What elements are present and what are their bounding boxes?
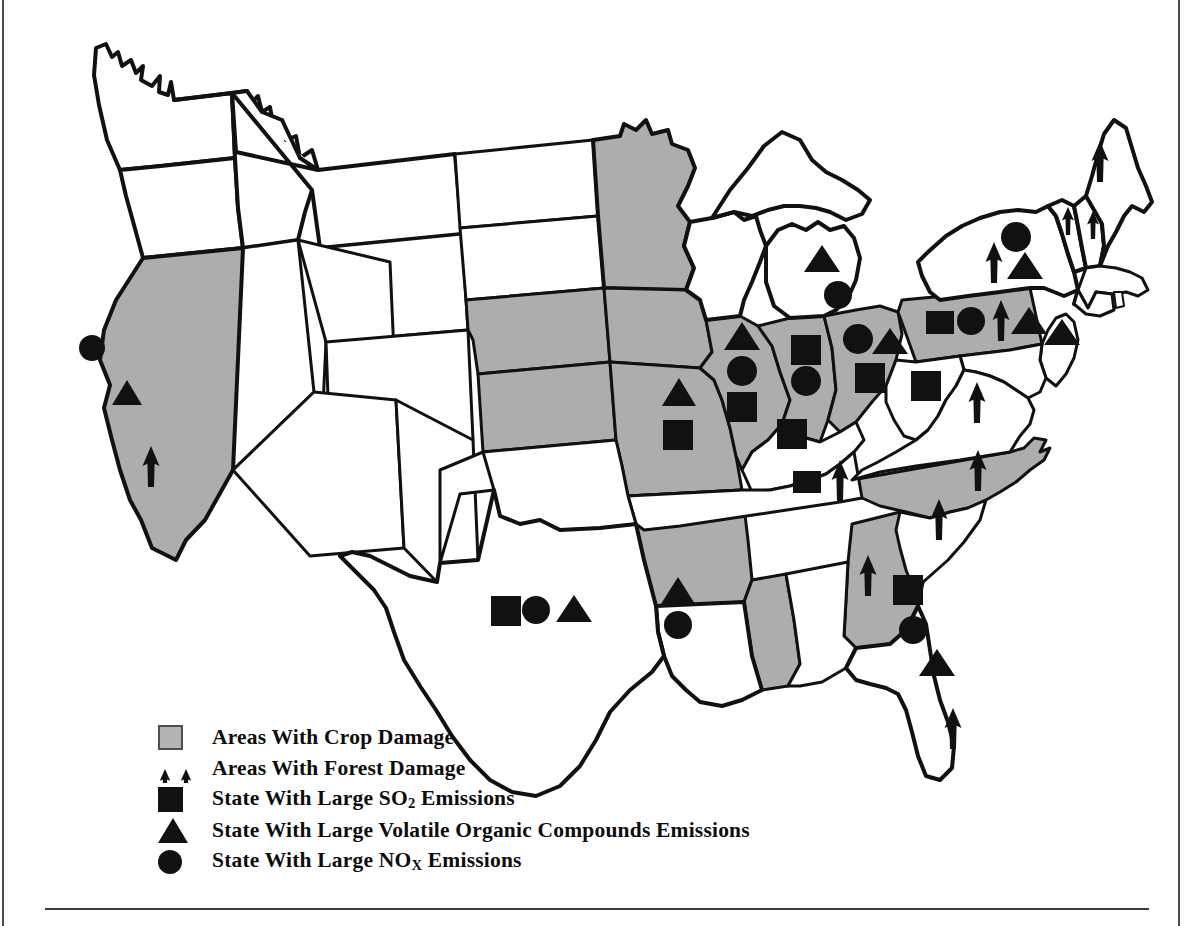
legend-item-nox: State With Large NOX Emissions [158,846,798,877]
state-polygons [94,44,1152,796]
legend-item-forest-damage: Areas With Forest Damage [158,753,798,784]
legend-label-so2: State With Large SO2 Emissions [212,786,515,812]
marker-square-missouri [663,420,693,450]
legend-item-voc: State With Large Volatile Organic Compou… [158,815,798,846]
marker-circle-louisiana [664,611,692,639]
state-north-dakota [455,140,598,228]
legend-label-nox-pre: State With Large NO [212,848,411,872]
legend-label-crop-damage: Areas With Crop Damage [212,725,454,750]
state-nebraska [466,288,610,374]
marker-square-illinois [727,392,757,422]
legend-label-nox-post: Emissions [422,848,521,872]
legend-label-forest-damage: Areas With Forest Damage [212,756,465,781]
marker-circle-indiana [791,366,821,396]
state-washington [94,44,235,170]
legend-item-so2: State With Large SO2 Emissions [158,784,798,815]
legend-label-so2-post: Emissions [415,786,514,810]
marker-square-kentucky [777,419,807,449]
map-legend: Areas With Crop Damage Areas With Forest… [158,722,798,877]
forest-damage-arrows-icon [158,753,212,784]
legend-label-nox: State With Large NOX Emissions [212,848,522,874]
acid-rain-damage-map-figure: Areas With Crop Damage Areas With Forest… [0,0,1184,926]
legend-item-crop-damage: Areas With Crop Damage [158,722,798,753]
legend-label-voc: State With Large Volatile Organic Compou… [212,818,750,843]
marker-square-west-virginia [911,371,941,401]
nox-circle-icon [158,846,212,877]
marker-square-texas [491,596,521,626]
marker-square-ohio [855,363,885,393]
marker-circle-new-york [1001,222,1031,252]
marker-square-pennsylvania [926,311,954,334]
marker-circle-florida [899,616,927,644]
marker-square-tennessee [793,471,821,493]
state-south-dakota [460,216,604,300]
state-rhode-island [1114,292,1124,308]
marker-circle-texas [522,596,550,624]
crop-damage-swatch-icon [158,722,212,753]
state-michigan-up [712,132,870,220]
voc-triangle-icon [158,815,212,846]
marker-circle-michigan [824,281,852,309]
marker-circle-pennsylvania [957,307,985,335]
state-iowa [604,288,712,368]
so2-square-icon [158,784,212,815]
legend-label-nox-sub: X [411,858,422,874]
state-oregon [120,158,243,258]
marker-circle-ohio [843,324,873,354]
state-minnesota [593,120,695,290]
marker-circle-illinois [727,356,757,386]
marker-square-georgia [893,575,923,605]
state-connecticut [1074,290,1114,316]
marker-square-indiana [791,335,821,365]
legend-label-so2-pre: State With Large SO [212,786,408,810]
state-kansas [478,362,616,452]
marker-circle-california [79,335,105,361]
